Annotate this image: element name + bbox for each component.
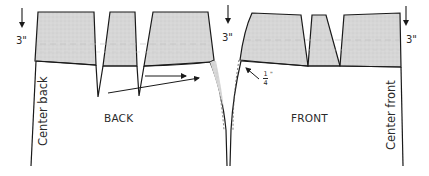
shift-arrows (108, 76, 199, 93)
fraction-unit: " (270, 71, 273, 77)
quarter-inch-pointer (246, 68, 259, 79)
center-back-label: Center back (38, 76, 50, 146)
fraction-denominator: 4 (263, 79, 267, 87)
front-panel-label: FRONT (291, 113, 328, 124)
front-side-seam-original (233, 60, 239, 130)
fraction-numerator: 1 (263, 70, 267, 78)
pattern-drawing (0, 0, 429, 176)
back-yoke-depth-label: 3" (16, 36, 27, 46)
back-panel-label: BACK (104, 113, 133, 124)
side-yoke-depth-label: 3" (222, 33, 233, 43)
back-yoke (35, 12, 214, 66)
front-yoke (240, 13, 401, 67)
center-front-label: Center front (386, 80, 398, 150)
skirt-pattern-diagram: 3" 3" 3" 1 4 " BACK FRONT Center back Ce… (0, 0, 429, 176)
quarter-inch-label: 1 4 " (263, 71, 268, 86)
front-yoke-depth-label: 3" (406, 35, 417, 45)
